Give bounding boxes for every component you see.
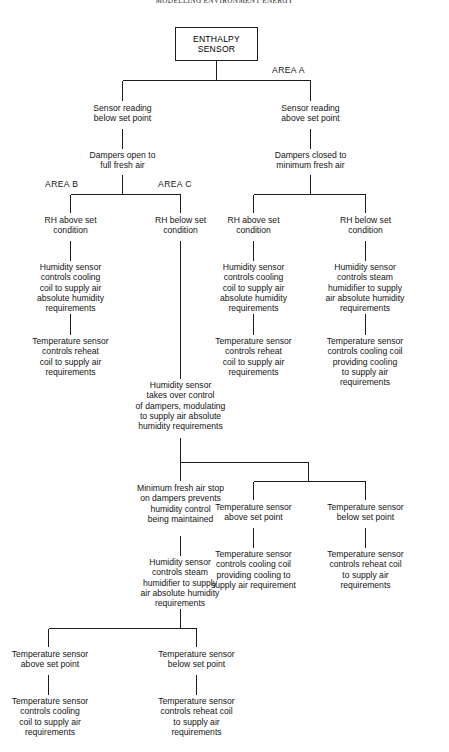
- node-humidity-cooling-b: Humidity sensor controls cooling coil to…: [13, 262, 128, 313]
- node-temp-cooling-bottom: Temperature sensor controls cooling coil…: [0, 696, 100, 737]
- node-sensor-reading-below: Sensor reading below set point: [62, 103, 183, 124]
- node-temp-reheat-b: Temperature sensor controls reheat coil …: [7, 336, 134, 377]
- label-area-a: AREA A: [272, 65, 305, 75]
- node-rh-below-set-right: RH below set condition: [313, 215, 418, 236]
- node-humidity-takeover: Humidity sensor takes over control of da…: [113, 380, 248, 431]
- running-header: MODELLING ENVIRONMENT ENERGY: [0, 0, 449, 5]
- node-humidity-steam-right: Humidity sensor controls steam humidifie…: [301, 262, 429, 313]
- node-temp-reheat-bottom: Temperature sensor controls reheat coil …: [134, 696, 259, 737]
- node-temp-cooling-right: Temperature sensor controls cooling coil…: [301, 336, 429, 387]
- node-temp-below-set-bottom: Temperature sensor below set point: [140, 649, 253, 670]
- node-humidity-cooling-right: Humidity sensor controls cooling coil to…: [196, 262, 311, 313]
- node-rh-above-set-right: RH above set condition: [201, 215, 306, 236]
- label-area-c: AREA C: [158, 179, 192, 189]
- node-temp-above-set-mid: Temperature sensor above set point: [190, 502, 317, 523]
- node-temp-above-set-bottom: Temperature sensor above set point: [0, 649, 100, 670]
- node-enthalpy-sensor: ENTHALPY SENSOR: [175, 27, 258, 61]
- node-rh-above-set-b: RH above set condition: [18, 215, 123, 236]
- node-dampers-closed: Dampers closed to minimum fresh air: [248, 150, 373, 171]
- node-temp-cooling-mid: Temperature sensor controls cooling coil…: [189, 549, 318, 590]
- node-temp-reheat-right: Temperature sensor controls reheat coil …: [190, 336, 317, 377]
- flowchart-page: MODELLING ENVIRONMENT ENERGY: [0, 0, 449, 752]
- node-sensor-reading-above: Sensor reading above set point: [250, 103, 371, 124]
- node-temp-below-set-mid: Temperature sensor below set point: [302, 502, 429, 523]
- label-area-b: AREA B: [45, 179, 78, 189]
- node-dampers-open: Dampers open to full fresh air: [62, 150, 183, 171]
- node-temp-reheat-mid: Temperature sensor controls reheat coil …: [302, 549, 429, 590]
